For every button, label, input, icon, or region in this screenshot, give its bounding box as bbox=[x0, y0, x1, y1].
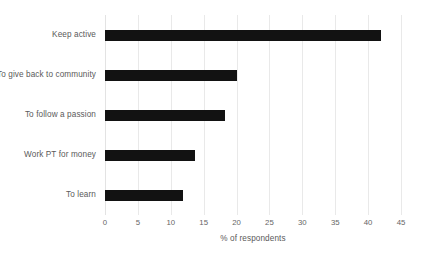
category-label-text: To learn bbox=[66, 190, 96, 201]
x-tick-45: 45 bbox=[397, 218, 406, 227]
category-label: To follow a passion bbox=[0, 110, 96, 121]
gridline-45 bbox=[401, 15, 402, 215]
x-tick-15: 15 bbox=[199, 218, 208, 227]
x-axis-tick-labels: 051015202530354045 bbox=[105, 218, 401, 230]
plot-area bbox=[105, 15, 401, 215]
bar-row bbox=[105, 135, 401, 175]
bar bbox=[105, 150, 195, 161]
category-label: Keep active bbox=[0, 30, 96, 41]
category-label: To give back to community bbox=[0, 70, 96, 81]
x-tick-0: 0 bbox=[103, 218, 107, 227]
category-label-text: To follow a passion bbox=[25, 110, 96, 121]
bar-row bbox=[105, 95, 401, 135]
x-axis-title: % of respondents bbox=[105, 234, 401, 243]
x-tick-40: 40 bbox=[364, 218, 373, 227]
bar-row bbox=[105, 55, 401, 95]
x-tick-25: 25 bbox=[265, 218, 274, 227]
x-tick-20: 20 bbox=[232, 218, 241, 227]
bar-row bbox=[105, 175, 401, 215]
category-label-text: To give back to community bbox=[0, 70, 96, 81]
bar-row bbox=[105, 15, 401, 55]
x-tick-30: 30 bbox=[298, 218, 307, 227]
bar bbox=[105, 110, 225, 121]
bar bbox=[105, 70, 237, 81]
category-label-text: Keep active bbox=[52, 30, 96, 41]
x-tick-10: 10 bbox=[166, 218, 175, 227]
category-label: Work PT for money bbox=[0, 150, 96, 161]
bar bbox=[105, 190, 183, 201]
horizontal-bar-chart: Keep activeTo give back to communityTo f… bbox=[0, 0, 431, 259]
bar bbox=[105, 30, 381, 41]
x-tick-5: 5 bbox=[136, 218, 140, 227]
category-label-text: Work PT for money bbox=[24, 150, 96, 161]
x-tick-35: 35 bbox=[331, 218, 340, 227]
category-label: To learn bbox=[0, 190, 96, 201]
